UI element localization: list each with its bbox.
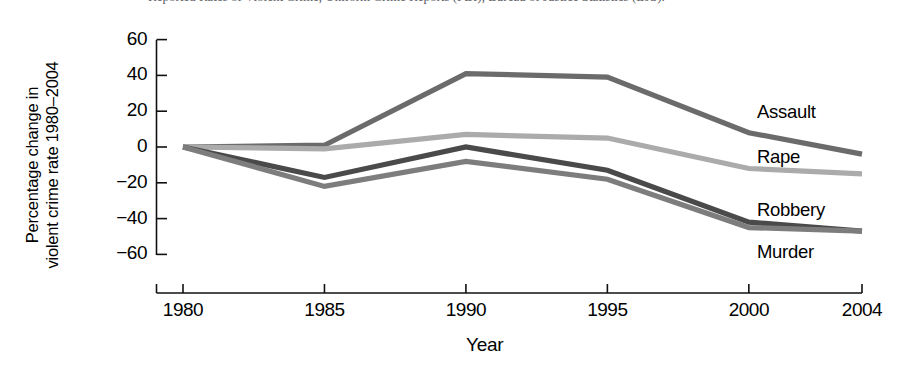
y-tick-label: 40 [91, 63, 147, 85]
x-tick-label: 2004 [822, 299, 902, 321]
y-tick-label: −20 [91, 171, 147, 193]
x-tick-label: 1985 [284, 299, 364, 321]
x-tick-label: 1990 [426, 299, 506, 321]
violent-crime-line-chart: Reported Rates of Violent Crime, Uniform… [0, 0, 912, 376]
y-tick-label: −60 [91, 242, 147, 264]
series-label-robbery: Robbery [757, 199, 825, 221]
y-tick-label: 20 [91, 99, 147, 121]
x-tick-label: 2000 [709, 299, 789, 321]
x-tick-label: 1980 [143, 299, 223, 321]
series-label-rape: Rape [757, 146, 800, 168]
y-tick-label: −40 [91, 207, 147, 229]
series-label-assault: Assault [757, 101, 816, 123]
y-tick-label: 60 [91, 28, 147, 50]
x-axis-title: Year [466, 334, 503, 356]
series-label-murder: Murder [757, 241, 814, 263]
x-tick-label: 1995 [567, 299, 647, 321]
y-tick-label: 0 [91, 135, 147, 157]
